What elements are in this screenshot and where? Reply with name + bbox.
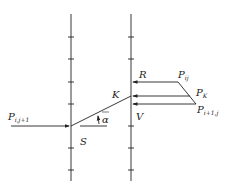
label-S: S bbox=[80, 136, 87, 147]
edge-ij-to-i1j bbox=[178, 82, 196, 104]
label-K: K bbox=[111, 89, 120, 100]
label-V: V bbox=[136, 111, 145, 122]
ray-s-to-k bbox=[71, 96, 131, 126]
label-p-k: PK bbox=[195, 87, 208, 99]
label-R: R bbox=[138, 69, 147, 80]
label-alpha: α bbox=[102, 114, 109, 125]
label-p-i-j1: Pi,j+1 bbox=[7, 111, 29, 124]
alpha-arrow bbox=[98, 116, 99, 124]
diagram: Pi,j+1 Pij PK Pi+1,j R K V S α bbox=[0, 0, 229, 192]
label-p-i1j: Pi+1,j bbox=[196, 104, 218, 117]
label-p-ij: Pij bbox=[177, 69, 189, 82]
